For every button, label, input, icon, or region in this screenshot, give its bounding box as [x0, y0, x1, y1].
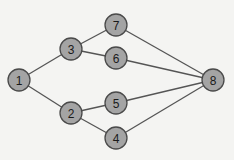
edge-7-8 — [116, 25, 213, 80]
node-6: 6 — [105, 47, 127, 69]
graph-svg: 12345678 — [0, 0, 234, 160]
edges-layer — [19, 25, 213, 138]
node-3: 3 — [60, 38, 82, 60]
edge-6-8 — [116, 58, 213, 80]
node-label: 2 — [68, 107, 75, 121]
graph-diagram: 12345678 — [0, 0, 234, 160]
node-label: 4 — [113, 132, 120, 146]
edge-5-8 — [116, 80, 213, 103]
edge-4-8 — [116, 80, 213, 138]
node-2: 2 — [60, 102, 82, 124]
nodes-layer: 12345678 — [8, 14, 224, 149]
node-label: 1 — [16, 74, 23, 88]
node-label: 6 — [113, 52, 120, 66]
node-5: 5 — [105, 92, 127, 114]
node-label: 7 — [113, 19, 120, 33]
node-8: 8 — [202, 69, 224, 91]
node-label: 5 — [113, 97, 120, 111]
node-label: 8 — [210, 74, 217, 88]
node-4: 4 — [105, 127, 127, 149]
node-label: 3 — [68, 43, 75, 57]
node-1: 1 — [8, 69, 30, 91]
node-7: 7 — [105, 14, 127, 36]
